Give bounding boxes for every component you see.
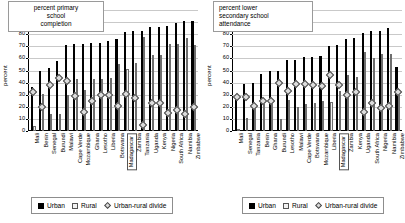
- urban-swatch-icon: [38, 203, 44, 209]
- bar-group: [181, 10, 189, 131]
- chart-panel-primary-completion: percent 0102030405060708090100 percent p…: [0, 0, 202, 223]
- bar-group: [114, 10, 122, 131]
- legend-label-rural: Rural: [292, 202, 308, 209]
- category-label: Kenya: [351, 133, 359, 189]
- y-axis-tick-mark: [230, 95, 232, 96]
- bar-group: [164, 10, 172, 131]
- y-axis-tick-mark: [230, 83, 232, 84]
- bar-group: [130, 10, 138, 131]
- bar-rural: [237, 129, 239, 131]
- bar-rural: [169, 44, 171, 131]
- bar-group: [360, 10, 368, 131]
- bar-rural: [314, 103, 316, 131]
- bar-rural: [143, 37, 145, 131]
- legend-item-rural-right: Rural: [283, 202, 308, 209]
- y-axis-tick-mark: [26, 71, 28, 72]
- urban-rural-divide-marker: [275, 78, 283, 86]
- category-label: Benin: [258, 133, 266, 189]
- bar-rural: [59, 114, 61, 131]
- chart-title-line: completion: [10, 20, 102, 28]
- y-axis-tick-mark: [230, 58, 232, 59]
- y-axis-tick-label: 20: [223, 104, 229, 110]
- y-axis-tick-label: 80: [19, 31, 25, 37]
- bar-rural: [373, 58, 375, 131]
- legend-item-urban-left: Urban: [38, 202, 65, 209]
- y-axis-tick-label: 60: [223, 56, 229, 62]
- legend-item-divide-right: Urban-rural divide: [315, 202, 378, 209]
- y-axis-tick-label: 30: [19, 92, 25, 98]
- bar-group: [173, 10, 181, 131]
- chart-title-line: secondary school: [219, 12, 311, 20]
- rural-swatch-icon: [283, 203, 289, 209]
- y-axis-tick-label: 30: [223, 92, 229, 98]
- chart-title-line: school: [10, 12, 102, 20]
- bar-rural: [381, 54, 383, 131]
- legend-item-rural-left: Rural: [72, 202, 97, 209]
- y-axis-tick-label: 70: [223, 44, 229, 50]
- category-label: Liberia: [326, 133, 334, 189]
- bar-group: [147, 10, 155, 131]
- bar-group: [343, 10, 351, 131]
- bar-rural: [177, 44, 179, 131]
- chart-title-left: percent primaryschoolcompletion: [8, 1, 104, 32]
- category-label: Burundi: [54, 133, 62, 189]
- bar-group: [190, 10, 198, 131]
- y-axis-tick-mark: [26, 58, 28, 59]
- chart-title-line: percent primary: [10, 4, 102, 12]
- y-axis-tick-mark: [230, 46, 232, 47]
- y-axis-tick-mark: [26, 95, 28, 96]
- category-label: Ghana: [267, 133, 275, 189]
- y-axis-tick-mark: [26, 107, 28, 108]
- bar-rural: [33, 126, 35, 131]
- y-axis-tick-mark: [26, 46, 28, 47]
- bar-rural: [110, 78, 112, 131]
- category-label: Lesotho: [284, 133, 292, 189]
- bar-rural: [322, 101, 324, 131]
- bar-rural: [126, 69, 128, 131]
- y-axis-tick-mark: [26, 131, 28, 132]
- y-axis-tick-label: 70: [19, 44, 25, 50]
- legend-left: Urban Rural Urban-rural divide: [31, 197, 173, 214]
- category-label: Mali: [233, 133, 241, 189]
- bar-rural: [390, 54, 392, 131]
- bar-rural: [263, 104, 265, 131]
- bar-group: [394, 10, 402, 131]
- y-axis-title-left: percent: [2, 65, 8, 86]
- chart-title-right: percent lowersecondary schoolattendance: [213, 1, 313, 32]
- category-label: Namibia: [181, 133, 189, 189]
- diamond-marker-icon: [315, 202, 322, 209]
- diamond-marker-icon: [104, 202, 111, 209]
- bar-rural: [194, 45, 196, 131]
- y-axis-tick-label: 50: [19, 68, 25, 74]
- bar-rural: [364, 52, 366, 131]
- category-label: South Africa: [173, 133, 181, 189]
- bar-rural: [93, 79, 95, 131]
- category-label: Zimbabwe: [394, 133, 402, 189]
- bar-group: [368, 10, 376, 131]
- bar-group: [139, 10, 147, 131]
- chart-title-line: attendance: [219, 20, 311, 28]
- urban-rural-divide-marker: [385, 101, 393, 109]
- y-axis-tick-mark: [230, 71, 232, 72]
- chart-panel-lower-secondary-attendance: percent 0102030405060708090100 percent l…: [202, 0, 404, 223]
- y-axis-tick-mark: [26, 83, 28, 84]
- bar-group: [122, 10, 130, 131]
- bar-rural: [280, 119, 282, 131]
- bar-rural: [67, 95, 69, 131]
- y-axis-tick-label: 20: [19, 104, 25, 110]
- category-label: Senegal: [241, 133, 249, 189]
- bar-rural: [330, 102, 332, 131]
- chart-title-line: percent lower: [219, 4, 311, 12]
- bar-group: [377, 10, 385, 131]
- category-label-text: Zimbabwe: [400, 133, 405, 159]
- y-axis-tick-label: 40: [19, 80, 25, 86]
- bar-rural: [160, 55, 162, 131]
- y-axis-tick-mark: [230, 107, 232, 108]
- category-label: Zambia: [343, 133, 351, 189]
- y-axis-tick-label: 60: [19, 56, 25, 62]
- legend-label-rural: Rural: [81, 202, 97, 209]
- y-axis-tick-label: 0: [226, 128, 229, 134]
- y-axis-tick-label: 10: [223, 116, 229, 122]
- y-axis-tick-label: 80: [223, 31, 229, 37]
- category-label: Nigeria: [164, 133, 172, 189]
